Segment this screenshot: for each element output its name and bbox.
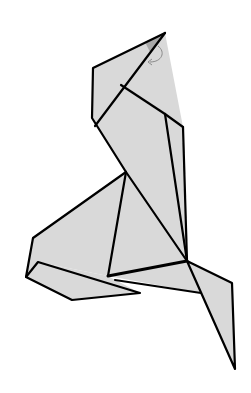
paper-faces: [26, 33, 235, 369]
origami-seal-diagram: [0, 0, 251, 393]
